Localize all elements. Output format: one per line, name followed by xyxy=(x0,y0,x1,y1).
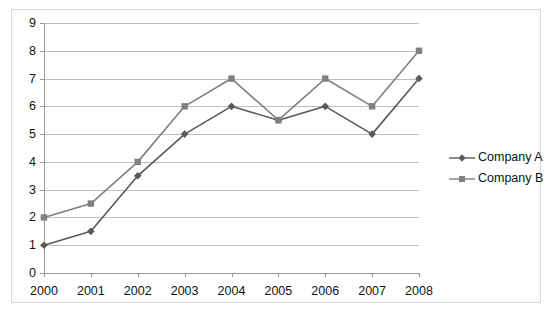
x-axis-tick xyxy=(232,273,233,277)
x-axis-label: 2002 xyxy=(124,285,152,298)
data-point-marker xyxy=(40,241,48,249)
data-point-marker xyxy=(321,103,329,111)
x-axis-tick xyxy=(325,273,326,277)
series-company-b xyxy=(41,48,422,221)
y-axis-label: 8 xyxy=(29,45,36,58)
data-point-marker xyxy=(228,103,236,111)
plot-area: 0123456789 20002001200220032004200520062… xyxy=(44,23,419,273)
chart-frame: 0123456789 20002001200220032004200520062… xyxy=(11,9,541,303)
series-plot xyxy=(44,23,419,273)
y-axis-label: 6 xyxy=(29,100,36,113)
data-point-marker xyxy=(88,200,94,206)
x-axis-label: 2001 xyxy=(77,285,105,298)
x-axis-tick xyxy=(91,273,92,277)
x-axis-label: 2004 xyxy=(218,285,246,298)
y-axis-label: 4 xyxy=(29,156,36,169)
y-axis-label: 0 xyxy=(29,267,36,280)
data-point-marker xyxy=(275,117,281,123)
x-axis-tick xyxy=(185,273,186,277)
x-axis-label: 2007 xyxy=(358,285,386,298)
y-axis-label: 7 xyxy=(29,72,36,85)
y-axis-label: 9 xyxy=(29,17,36,30)
legend-marker-diamond-icon xyxy=(449,152,475,164)
data-point-marker xyxy=(135,159,141,165)
data-point-marker xyxy=(41,214,47,220)
chart-legend: Company A Company B xyxy=(449,147,543,189)
y-axis-label: 5 xyxy=(29,128,36,141)
legend-label-company-a: Company A xyxy=(478,151,543,164)
data-point-marker xyxy=(181,103,187,109)
x-axis-label: 2006 xyxy=(311,285,339,298)
y-axis-label: 3 xyxy=(29,183,36,196)
x-axis-label: 2008 xyxy=(405,285,433,298)
data-point-marker xyxy=(322,75,328,81)
x-axis-label: 2005 xyxy=(264,285,292,298)
series-company-a xyxy=(40,75,423,249)
x-axis-tick xyxy=(138,273,139,277)
x-axis-tick xyxy=(44,273,45,277)
legend-item-company-b[interactable]: Company B xyxy=(449,168,543,189)
y-axis-label: 1 xyxy=(29,239,36,252)
x-axis-tick xyxy=(372,273,373,277)
x-axis-label: 2000 xyxy=(30,285,58,298)
x-axis-tick xyxy=(419,273,420,277)
data-point-marker xyxy=(369,103,375,109)
legend-marker-square-icon xyxy=(449,173,475,185)
data-point-marker xyxy=(416,48,422,54)
legend-label-company-b: Company B xyxy=(478,172,543,185)
x-axis-tick xyxy=(278,273,279,277)
y-axis-label: 2 xyxy=(29,211,36,224)
x-axis-label: 2003 xyxy=(171,285,199,298)
data-point-marker xyxy=(228,75,234,81)
legend-item-company-a[interactable]: Company A xyxy=(449,147,543,168)
